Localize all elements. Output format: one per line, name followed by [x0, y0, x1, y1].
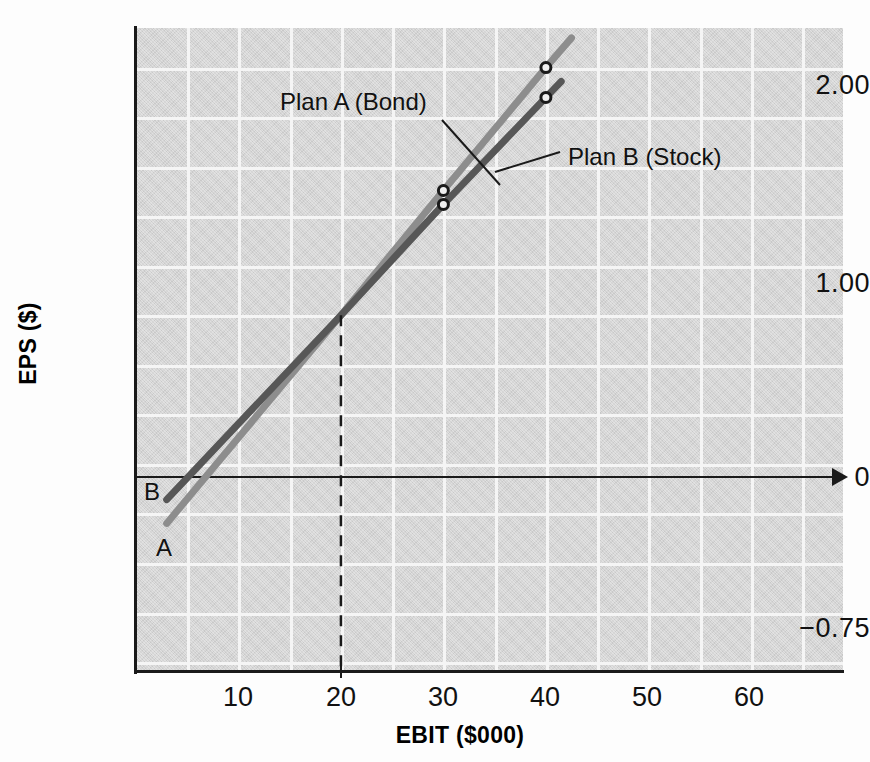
leader-line-plan-b [495, 152, 560, 172]
data-point-marker [438, 199, 448, 209]
data-point-marker [541, 63, 551, 73]
series-line-plan-b [167, 82, 562, 500]
series-overlay [0, 0, 870, 762]
data-point-marker [438, 186, 448, 196]
chart-figure: 2.00 1.00 0 −0.75 10 20 30 40 50 60 EPS … [0, 0, 870, 762]
annotation-plan-a: Plan A (Bond) [280, 88, 427, 116]
data-point-marker [541, 92, 551, 102]
series-end-label-b: B [144, 478, 160, 506]
series-end-label-a: A [156, 534, 172, 562]
annotation-plan-b: Plan B (Stock) [568, 143, 721, 171]
